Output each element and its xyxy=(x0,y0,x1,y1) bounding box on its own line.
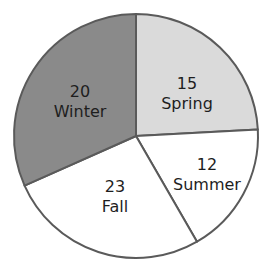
slice-label-winter: Winter xyxy=(54,102,107,121)
slice-value-spring: 15 xyxy=(177,74,197,93)
slice-value-summer: 12 xyxy=(197,155,217,174)
pie-chart: 15Spring12Summer23Fall20Winter xyxy=(0,0,268,277)
slice-label-fall: Fall xyxy=(102,197,128,216)
slice-label-summer: Summer xyxy=(173,175,241,194)
pie-slices xyxy=(14,14,258,258)
slice-label-spring: Spring xyxy=(161,94,213,113)
slice-value-winter: 20 xyxy=(70,82,90,101)
slice-value-fall: 23 xyxy=(105,177,125,196)
